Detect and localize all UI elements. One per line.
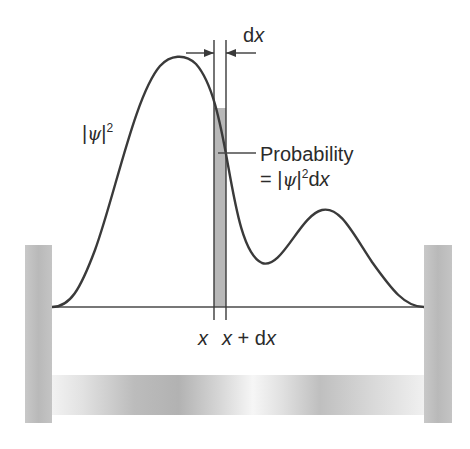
probability-title: Probability xyxy=(260,144,353,164)
left-wall xyxy=(25,245,52,423)
probability-diagram xyxy=(0,0,470,449)
x-symbol: x xyxy=(266,327,276,349)
psi-symbol: ψ xyxy=(282,169,296,190)
axis-label-x: x xyxy=(198,328,208,348)
dx-d: d xyxy=(243,24,254,46)
psi-squared-curve xyxy=(52,57,424,307)
exponent: 2 xyxy=(107,121,114,135)
psi-symbol: ψ xyxy=(87,123,101,144)
psi-squared-label: |ψ|2 xyxy=(82,122,113,143)
x-symbol: x xyxy=(198,327,208,349)
equals-bar: = | xyxy=(260,168,282,190)
dx-label: dx xyxy=(243,25,264,45)
x-symbol: x xyxy=(320,168,330,190)
d-symbol: d xyxy=(308,168,319,190)
dx-x: x xyxy=(254,24,264,46)
density-gradient-bar xyxy=(52,375,424,415)
plus-d: + d xyxy=(232,327,266,349)
probability-text: Probability xyxy=(260,143,353,165)
dx-strip xyxy=(214,108,226,307)
x-symbol: x xyxy=(222,327,232,349)
right-wall xyxy=(424,245,452,423)
probability-formula: = |ψ|2dx xyxy=(260,168,330,189)
axis-label-x-plus-dx: x + dx xyxy=(222,328,276,348)
